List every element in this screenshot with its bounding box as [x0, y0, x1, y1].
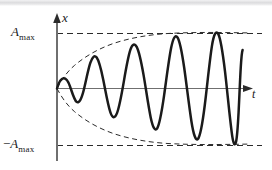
amplitude-max-symbol: A: [11, 24, 19, 39]
oscillation-figure: x t Amax −Amax: [0, 0, 272, 170]
amplitude-max-label: Amax: [11, 25, 35, 42]
horizontal-axis-label: t: [252, 88, 255, 100]
vertical-axis-label: x: [62, 11, 68, 24]
lower-envelope-curve: [57, 89, 248, 145]
plot-canvas: [0, 0, 272, 170]
vertical-axis-arrowhead: [53, 13, 61, 23]
amplitude-min-label: −Amax: [3, 137, 34, 154]
amplitude-min-subscript: max: [18, 144, 34, 154]
amplitude-max-subscript: max: [19, 32, 35, 42]
